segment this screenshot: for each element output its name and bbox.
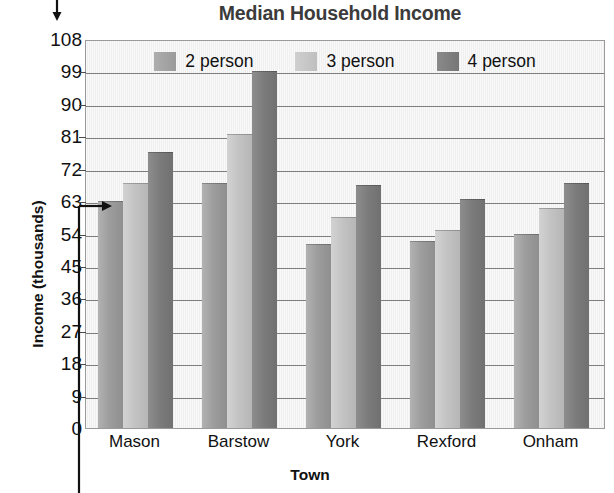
y-tick-mark xyxy=(79,267,86,268)
bar-top-edge xyxy=(539,208,564,209)
y-tick-mark xyxy=(79,202,86,203)
bar-onham-4-person xyxy=(564,183,589,428)
y-tick-label: 18 xyxy=(4,354,82,373)
bar-mason-4-person xyxy=(148,152,173,428)
legend-label: 2 person xyxy=(185,51,253,72)
y-tick-mark xyxy=(79,397,86,398)
plot-area xyxy=(85,40,605,429)
y-tick-mark xyxy=(79,105,86,106)
bar-onham-2-person xyxy=(514,234,539,429)
bar-top-edge xyxy=(460,199,485,200)
bar-barstow-2-person xyxy=(202,183,227,428)
bar-top-edge xyxy=(410,241,435,242)
bar-mason-2-person xyxy=(98,201,123,428)
bar-barstow-4-person xyxy=(252,71,277,428)
bar-rexford-3-person xyxy=(435,230,460,428)
chart-title: Median Household Income xyxy=(150,2,530,25)
legend-item-4-person: 4 person xyxy=(437,51,536,72)
bar-rexford-4-person xyxy=(460,199,485,428)
bar-top-edge xyxy=(564,183,589,184)
y-tick-label: 72 xyxy=(4,160,82,179)
y-tick-label: 81 xyxy=(4,127,82,146)
x-axis-title: Town xyxy=(190,466,430,484)
y-tick-label: 99 xyxy=(4,62,82,81)
bar-york-3-person xyxy=(331,217,356,428)
x-tick-label-rexford: Rexford xyxy=(387,432,507,452)
bar-top-edge xyxy=(356,185,381,186)
chart-legend: 2 person3 person4 person xyxy=(85,45,605,77)
x-tick-label-york: York xyxy=(283,432,403,452)
y-tick-label: 108 xyxy=(4,30,82,49)
gridline xyxy=(86,138,604,139)
legend-swatch-icon xyxy=(154,52,176,71)
bar-rexford-2-person xyxy=(410,241,435,428)
y-tick-mark xyxy=(79,137,86,138)
bar-mason-3-person xyxy=(123,183,148,428)
legend-item-2-person: 2 person xyxy=(154,51,253,72)
bar-top-edge xyxy=(435,230,460,231)
bar-top-edge xyxy=(202,183,227,184)
y-tick-label: 36 xyxy=(4,289,82,308)
bar-top-edge xyxy=(227,134,252,135)
y-tick-mark xyxy=(79,332,86,333)
y-tick-label: 45 xyxy=(4,257,82,276)
x-tick-label-onham: Onham xyxy=(491,432,611,452)
chart-screenshot: Median Household Income Income (thousand… xyxy=(0,0,614,493)
x-tick-label-mason: Mason xyxy=(75,432,195,452)
y-tick-label: 90 xyxy=(4,95,82,114)
bar-top-edge xyxy=(98,201,123,202)
y-tick-label: 0 xyxy=(4,419,82,438)
gridline xyxy=(86,106,604,107)
y-tick-label: 9 xyxy=(4,387,82,406)
y-tick-mark xyxy=(79,364,86,365)
bar-york-4-person xyxy=(356,185,381,428)
legend-item-3-person: 3 person xyxy=(295,51,394,72)
bar-top-edge xyxy=(306,244,331,245)
bar-top-edge xyxy=(123,183,148,184)
bar-onham-3-person xyxy=(539,208,564,428)
x-tick-label-barstow: Barstow xyxy=(179,432,299,452)
y-axis-ticks: 1089990817263544536271890 xyxy=(0,0,82,493)
y-tick-label: 63 xyxy=(4,192,82,211)
y-tick-mark xyxy=(79,235,86,236)
bar-top-edge xyxy=(331,217,356,218)
y-tick-mark xyxy=(79,170,86,171)
bar-top-edge xyxy=(514,234,539,235)
legend-label: 4 person xyxy=(468,51,536,72)
bar-york-2-person xyxy=(306,244,331,428)
legend-swatch-icon xyxy=(295,52,317,71)
y-tick-label: 27 xyxy=(4,322,82,341)
y-tick-label: 54 xyxy=(4,225,82,244)
legend-swatch-icon xyxy=(437,52,459,71)
y-tick-mark xyxy=(79,299,86,300)
bar-top-edge xyxy=(148,152,173,153)
legend-label: 3 person xyxy=(326,51,394,72)
bar-barstow-3-person xyxy=(227,134,252,428)
